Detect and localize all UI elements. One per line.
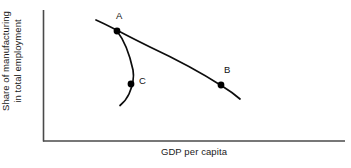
data-point-b-label: B: [224, 65, 230, 75]
x-axis-label: GDP per capita: [43, 146, 345, 158]
y-axis-label-line-2: in total employment: [12, 0, 24, 127]
manufacturing-share-chart: A B C GDP per capita Share of manufactur…: [0, 0, 351, 168]
y-axis-label-line-1: Share of manufacturing: [0, 0, 12, 127]
data-point-c-marker: [128, 81, 135, 88]
chart-plot-area: [0, 0, 351, 168]
y-axis-label: Share of manufacturing in total employme…: [0, 0, 30, 127]
curve-country-path: [117, 31, 134, 106]
data-point-a-marker: [114, 28, 121, 35]
data-point-a-label: A: [116, 11, 122, 21]
data-point-c-label: C: [139, 76, 146, 86]
data-point-b-marker: [218, 82, 225, 89]
